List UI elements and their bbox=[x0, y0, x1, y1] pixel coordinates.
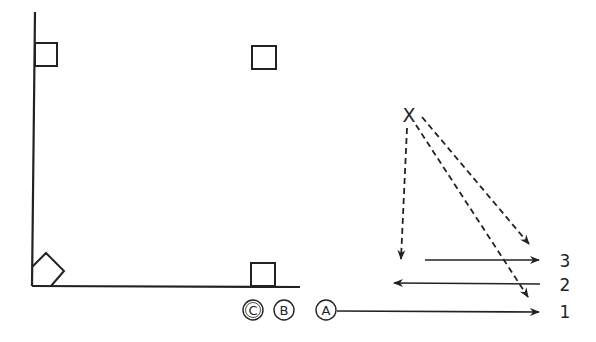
dashed-arrow-to-lane-3 bbox=[422, 117, 529, 244]
x-origin-marker: X bbox=[402, 104, 415, 126]
lane-1-arrow bbox=[337, 311, 539, 312]
position-c-label: C bbox=[248, 303, 257, 318]
field-boundary bbox=[32, 12, 300, 287]
lane-numbers: 3 2 1 bbox=[560, 251, 571, 322]
markers bbox=[32, 43, 276, 286]
lane-1-label: 1 bbox=[560, 302, 571, 322]
position-b-label: B bbox=[280, 303, 289, 318]
diagram-canvas: C B A X 3 2 1 bbox=[0, 0, 596, 342]
position-a-label: A bbox=[322, 303, 331, 318]
position-a: A bbox=[316, 300, 336, 320]
position-b: B bbox=[274, 300, 294, 320]
position-c: C bbox=[243, 300, 263, 320]
lane-2-label: 2 bbox=[560, 275, 571, 295]
circled-position-labels: C B A bbox=[243, 300, 336, 320]
lane-3-label: 3 bbox=[560, 251, 571, 271]
bottom-right-square-marker bbox=[251, 263, 275, 286]
lane-2-arrow bbox=[394, 283, 540, 284]
top-right-square-marker bbox=[252, 46, 276, 69]
top-left-square-marker bbox=[35, 43, 57, 66]
dashed-arrows bbox=[401, 117, 529, 297]
corner-rotated-square-marker bbox=[32, 253, 64, 286]
dashed-arrow-to-lane-1 bbox=[416, 125, 528, 297]
dashed-arrow-down bbox=[401, 128, 407, 259]
